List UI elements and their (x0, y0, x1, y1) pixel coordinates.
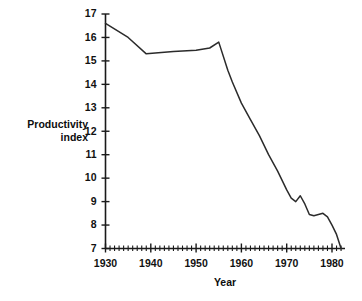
x-axis-tick-labels: 193019401950196019701980 (94, 257, 344, 269)
y-tick-label: 17 (85, 7, 97, 19)
x-tick-label: 1950 (184, 257, 208, 269)
x-tick-label: 1970 (275, 257, 299, 269)
y-tick-label: 14 (85, 78, 97, 90)
y-tick-label: 10 (85, 171, 97, 183)
x-axis-title: Year (214, 276, 236, 288)
y-tick-label: 13 (85, 101, 97, 113)
y-tick-label: 8 (91, 218, 97, 230)
x-tick-label: 1930 (94, 257, 118, 269)
y-tick-label: 7 (91, 242, 97, 254)
y-tick-label: 16 (85, 31, 97, 43)
y-tick-label: 11 (85, 148, 96, 160)
y-tick-label: 9 (91, 195, 97, 207)
chart-container: 7891011121314151617 19301940195019601970… (0, 0, 362, 301)
x-tick-label: 1940 (139, 257, 163, 269)
productivity-index-series-line (106, 23, 342, 248)
y-axis-title-line1: Productivity (27, 118, 88, 130)
y-axis-title-line2: index (61, 131, 89, 143)
y-tick-label: 15 (85, 54, 97, 66)
x-tick-label: 1960 (230, 257, 254, 269)
x-tick-label: 1980 (320, 257, 344, 269)
productivity-index-line-chart: 7891011121314151617 19301940195019601970… (0, 0, 362, 301)
